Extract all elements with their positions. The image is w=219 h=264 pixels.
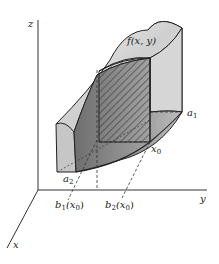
- x0-label: x0: [151, 143, 161, 156]
- a2-label: a2: [63, 173, 73, 186]
- y-axis-label: y: [199, 193, 206, 204]
- b2-label: b2(x0): [105, 199, 134, 212]
- surface-label: f(x, y): [126, 35, 156, 46]
- cross-section-hatched: [99, 58, 150, 142]
- solid-diagram: z y x f(x, y) a1 a2 x0 b1(x0) b2(x0): [0, 0, 219, 264]
- a1-label: a1: [187, 107, 197, 120]
- left-end-face: [56, 123, 76, 172]
- b1-label: b1(x0): [55, 199, 84, 212]
- x-axis-label: x: [13, 239, 19, 250]
- z-axis-label: z: [27, 18, 34, 29]
- x-axis: [7, 190, 38, 248]
